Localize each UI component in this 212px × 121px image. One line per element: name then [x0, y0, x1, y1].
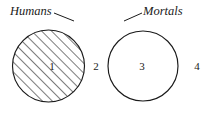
venn-diagram-canvas: Humans Mortals 1 2 3 4	[0, 0, 212, 121]
region-number-1: 1	[49, 60, 55, 72]
set-label-mortals: Mortals	[142, 4, 183, 18]
set-label-humans: Humans	[9, 4, 52, 18]
region-number-4: 4	[194, 60, 200, 72]
venn-diagram: Humans Mortals 1 2 3 4	[0, 0, 212, 121]
region-number-3: 3	[139, 60, 145, 72]
region-number-2: 2	[93, 60, 99, 72]
region-1-hatch-fill	[0, 0, 212, 121]
